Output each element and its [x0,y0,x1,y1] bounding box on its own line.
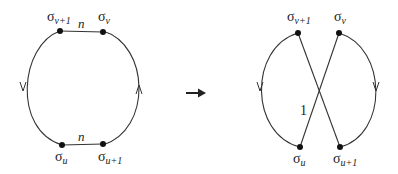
left-arc [27,31,62,145]
node-dot [57,28,63,34]
node-dot [100,29,106,35]
node-label-sigma-u: σu [293,151,306,168]
node-label-sigma-v: σv [334,9,347,26]
right-diagram: 1 σv+1 σv σu σu+1 [257,9,379,168]
node-dot [297,144,303,150]
left-diagram: n n σv+1 σv σu σu+1 [20,9,142,166]
bottom-edge [62,144,103,145]
edge-label-cross: 1 [300,103,307,118]
node-label-sigma-v-plus-1: σv+1 [47,9,71,26]
node-dot [336,30,342,36]
node-label-sigma-v: σv [98,9,111,26]
node-dot [100,141,106,147]
node-label-sigma-u-plus-1: σu+1 [333,151,357,168]
down-arrowhead-icon [257,82,263,91]
right-arc [339,33,376,147]
node-label-sigma-v-plus-1: σv+1 [287,9,311,26]
top-edge [60,31,103,32]
edge-label-bottom: n [78,129,85,144]
node-dot [337,144,343,150]
node-label-sigma-u-plus-1: σu+1 [98,149,122,166]
down-arrowhead-icon [20,82,26,91]
transition-arrow-icon [186,89,206,98]
edge-label-top: n [78,16,85,31]
right-arc [103,31,139,145]
left-arc [261,33,300,147]
diagram-canvas: n n σv+1 σv σu σu+1 1 σv+1 σv σu σu+1 [0,0,398,174]
node-dot [295,30,301,36]
node-dot [59,142,65,148]
node-label-sigma-u: σu [55,149,68,166]
